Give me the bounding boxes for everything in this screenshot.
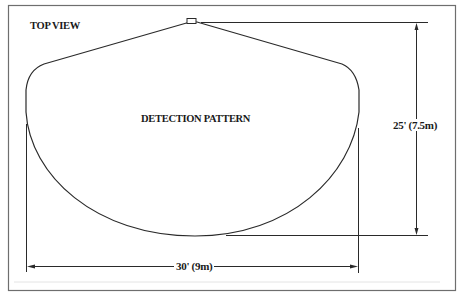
sensor-icon	[187, 19, 196, 24]
width-dimension-label: 30' (9m)	[174, 260, 214, 272]
depth-dimension-label: 25' (7.5m)	[392, 119, 438, 131]
depth-arrow-up-icon	[415, 23, 419, 30]
width-arrow-left-icon	[27, 265, 35, 269]
diagram-drawing	[0, 0, 462, 299]
depth-arrow-down-icon	[415, 228, 419, 235]
detection-pattern-outline	[26, 22, 359, 236]
diagram-title: TOP VIEW	[30, 20, 80, 31]
detection-pattern-label: DETECTION PATTERN	[141, 113, 250, 124]
diagram-frame	[9, 6, 456, 291]
width-arrow-right-icon	[350, 265, 358, 269]
detection-diagram: TOP VIEW DETECTION PATTERN 25' (7.5m) 30…	[0, 0, 462, 299]
